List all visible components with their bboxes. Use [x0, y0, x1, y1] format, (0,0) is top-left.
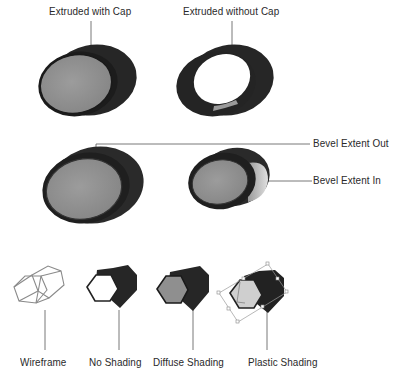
- label-plastic-shading: Plastic Shading: [248, 356, 317, 368]
- diagram-canvas: [0, 0, 411, 379]
- diffuse-shading-shape: [157, 266, 209, 311]
- label-bevel-extent-out: Bevel Extent Out: [313, 137, 389, 149]
- plastic-shading-shape: [217, 262, 288, 323]
- label-wireframe: Wireframe: [20, 356, 66, 368]
- label-bevel-extent-in: Bevel Extent In: [313, 174, 381, 186]
- label-no-shading: No Shading: [89, 356, 142, 368]
- extruded-without-cap-shape: [170, 37, 280, 124]
- bevel-extent-out-shape: [36, 138, 151, 232]
- label-diffuse-shading: Diffuse Shading: [153, 356, 224, 368]
- no-shading-shape: [87, 265, 137, 308]
- label-extruded-with-cap: Extruded with Cap: [49, 5, 131, 17]
- wireframe-shape: [14, 266, 64, 303]
- bevel-extent-in-shape: [183, 141, 275, 215]
- label-extruded-without-cap: Extruded without Cap: [183, 5, 279, 17]
- extruded-with-cap-shape: [32, 37, 143, 124]
